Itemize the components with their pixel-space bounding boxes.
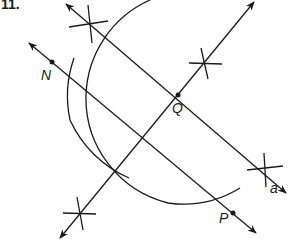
label-p: P [219, 211, 228, 225]
small-arc [67, 58, 129, 178]
perpendicular-line [60, 2, 254, 238]
point-n [50, 60, 55, 65]
label-a: a [270, 181, 278, 195]
line-a [66, 4, 286, 193]
cross-mark-top-left [69, 5, 108, 43]
label-n: N [41, 68, 51, 82]
construction-diagram [0, 0, 306, 239]
large-arc [86, 0, 240, 204]
label-q: Q [172, 101, 183, 115]
point-q [176, 93, 181, 98]
cross-mark-bottom-left [63, 197, 96, 230]
point-p [231, 211, 236, 216]
